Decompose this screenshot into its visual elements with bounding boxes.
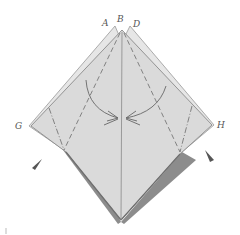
sink-arrow-left	[32, 159, 42, 170]
label-b: B	[116, 14, 124, 24]
sink-arrow-right	[205, 150, 214, 162]
origami-diagram: A B D G H	[0, 0, 240, 235]
label-d: D	[132, 19, 140, 29]
label-a: A	[101, 18, 109, 28]
label-h: H	[216, 120, 225, 130]
label-g: G	[15, 121, 22, 131]
